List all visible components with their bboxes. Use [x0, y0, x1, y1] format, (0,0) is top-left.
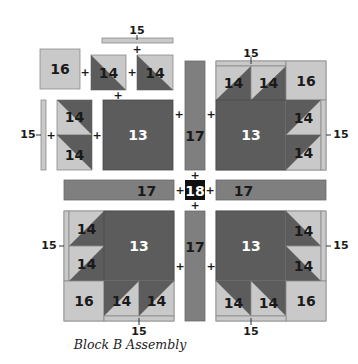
plus-sign: + [206, 109, 216, 120]
plus-sign: + [190, 170, 200, 181]
hst-14 [286, 246, 321, 281]
hst-14 [91, 55, 126, 90]
sashing-17-bottom [185, 211, 205, 321]
cornerstone-18 [185, 180, 205, 200]
square-16 [40, 49, 80, 89]
hst-14 [69, 246, 104, 281]
hst-14 [286, 135, 321, 170]
square-13 [216, 100, 286, 170]
hst-14 [69, 211, 104, 246]
plus-sign: + [113, 90, 123, 101]
plus-sign: + [92, 130, 102, 141]
sashing-17-right [216, 180, 326, 200]
hst-14 [286, 100, 321, 135]
sashing-17-top [185, 61, 205, 170]
plus-sign: + [175, 261, 185, 272]
square-13 [103, 100, 173, 170]
hst-14 [251, 281, 286, 316]
square-16 [286, 281, 326, 321]
square-13 [216, 211, 286, 281]
square-13 [104, 211, 174, 281]
top-right-quadrant-assembled [216, 57, 331, 170]
hst-14 [286, 211, 321, 246]
hst-14 [216, 66, 251, 100]
plus-sign: + [80, 67, 90, 78]
bottom-left-quadrant-assembled [59, 211, 174, 325]
block-b-assembly-diagram: .L { fill: #c9c9c9; stroke: #8a8a8a; str… [0, 0, 358, 364]
hst-14 [57, 100, 92, 135]
plus-sign: + [175, 185, 185, 196]
bottom-right-quadrant-assembled [216, 211, 331, 325]
square-16 [64, 281, 104, 321]
hst-14 [137, 55, 173, 90]
hst-14 [251, 66, 286, 100]
plus-sign: + [205, 185, 215, 196]
sashing-17-left [64, 180, 174, 200]
plus-sign: + [190, 200, 200, 211]
plus-sign: + [206, 261, 216, 272]
plus-sign: + [127, 67, 137, 78]
hst-14 [139, 281, 174, 316]
square-16 [286, 61, 326, 100]
assembly-shapes: .L { fill: #c9c9c9; stroke: #8a8a8a; str… [0, 0, 358, 364]
hst-14 [216, 281, 251, 316]
figure-caption: Block B Assembly [60, 337, 200, 352]
hst-14 [104, 281, 139, 316]
hst-14 [57, 135, 92, 170]
top-left-quadrant-unassembled [36, 35, 173, 170]
plus-sign: + [132, 44, 142, 55]
plus-sign: + [46, 130, 56, 141]
plus-sign: + [174, 109, 184, 120]
